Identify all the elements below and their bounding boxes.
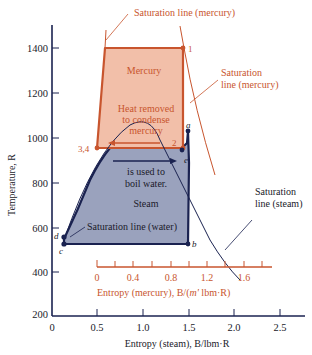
mercury-saturation-line-left <box>105 30 106 48</box>
label-steam: Steam <box>134 198 159 209</box>
x-tick-1.5: 1.5 <box>182 322 195 333</box>
x-axis-label: Entropy (steam), B/lbm·R <box>125 338 230 350</box>
mercury-tick-1.2: 1.2 <box>201 272 214 283</box>
y-tick-1000: 1000 <box>27 133 48 144</box>
x-tick-1.0: 1.0 <box>136 322 149 333</box>
y-tick-200: 200 <box>32 309 48 320</box>
label-used-1: is used to <box>127 166 165 177</box>
mercury-tick-1.6: 1.6 <box>238 272 251 283</box>
mercury-axis-label: Entropy (mercury), B/(m' lbm·R) <box>97 287 230 299</box>
x-tick-0.5: 0.5 <box>90 322 103 333</box>
y-axis-label: Temperature, R <box>6 154 17 216</box>
mercury-tick-0.4: 0.4 <box>127 272 140 283</box>
label-point-34: 3,4 <box>78 144 90 154</box>
label-sat-mercury-top: Saturation line (mercury) <box>134 7 235 19</box>
point-b <box>186 242 191 247</box>
leader-line-top <box>106 14 128 40</box>
label-mercury: Mercury <box>127 65 161 76</box>
x-tick-2.0: 2.0 <box>227 322 240 333</box>
label-point-c: c <box>59 246 63 256</box>
point-34 <box>95 146 100 151</box>
y-tick-1400: 1400 <box>27 43 48 54</box>
mercury-tick-0.8: 0.8 <box>165 272 178 283</box>
label-point-e: e <box>184 155 188 165</box>
label-point-d: d <box>54 231 59 241</box>
x-tick-0: 0 <box>49 322 54 333</box>
x-tick-2.5: 2.5 <box>273 322 286 333</box>
label-point-1: 1 <box>188 44 193 54</box>
x-ticks <box>97 309 280 316</box>
y-tick-600: 600 <box>32 223 48 234</box>
y-tick-800: 800 <box>32 178 48 189</box>
mercury-x-ticks <box>97 260 262 267</box>
label-sat-steam-1: Saturation <box>255 186 296 197</box>
label-heat-2: to condense <box>122 114 170 125</box>
label-sat-mercury-right-2: line (mercury) <box>221 79 278 91</box>
leader-line-right <box>190 80 218 103</box>
label-heat-1: Heat removed <box>118 103 174 114</box>
leader-line-steam <box>225 220 252 250</box>
label-sat-mercury-right-1: Saturation <box>221 67 262 78</box>
label-heat-3: mercury <box>129 125 162 136</box>
mercury-tick-0: 0 <box>95 272 100 283</box>
label-point-b: b <box>192 239 197 249</box>
label-sat-water: Saturation line (water) <box>87 221 177 233</box>
y-tick-1200: 1200 <box>27 88 48 99</box>
y-tick-400: 400 <box>32 267 48 278</box>
point-1 <box>181 46 186 51</box>
point-e <box>180 148 185 153</box>
label-used-2: boil water. <box>125 178 167 189</box>
point-d <box>61 234 66 239</box>
ts-diagram: 1400 1200 1000 800 600 400 200 0 0.5 1.0… <box>0 0 312 355</box>
label-point-a: a <box>186 120 191 130</box>
label-point-2: 2 <box>172 138 177 148</box>
label-sat-steam-2: line (steam) <box>255 198 302 210</box>
